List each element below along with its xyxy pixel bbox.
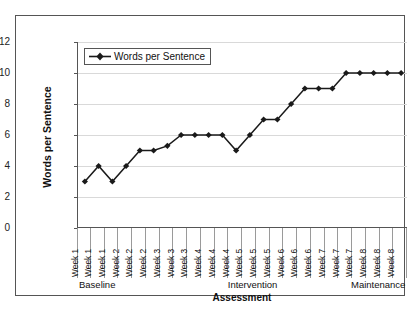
data-point-marker — [357, 70, 363, 76]
y-tick-label: 12 — [0, 37, 10, 47]
chart-figure: Words per Sentence 024681012 Words per S… — [0, 0, 420, 311]
x-tick-label: Week 7 — [317, 249, 326, 277]
plot-area — [77, 42, 407, 228]
x-tick-label: Week 3 — [152, 249, 161, 277]
x-tick-label: Week 1 — [70, 249, 79, 277]
phase-label: Maintenance — [351, 279, 405, 290]
x-tick-label: Week 4 — [194, 249, 203, 277]
y-axis-title: Words per Sentence — [38, 52, 56, 222]
x-tick-label: Week 2 — [139, 249, 148, 277]
y-axis-title-label: Words per Sentence — [41, 86, 53, 187]
x-tick-label: Week 8 — [386, 249, 395, 277]
chart-legend: Words per Sentence — [84, 48, 211, 65]
x-tick-label: Week 5 — [235, 249, 244, 277]
data-point-marker — [206, 132, 212, 138]
x-tick-label: Week 6 — [304, 249, 313, 277]
data-point-marker — [151, 147, 157, 153]
x-tick-label: Week 1 — [97, 249, 106, 277]
x-axis-labels: Week 1Week 1Week 1Week 2Week 2Week 2Week… — [77, 228, 407, 278]
data-point-marker — [371, 70, 377, 76]
y-tick-label: 8 — [0, 99, 10, 109]
x-tick-label: Week 7 — [331, 249, 340, 277]
x-tick-label: Week 6 — [276, 249, 285, 277]
phase-labels: BaselineInterventionMaintenance — [77, 279, 407, 292]
y-tick-label: 10 — [0, 68, 10, 78]
data-point-marker — [384, 70, 390, 76]
x-tick-label: Week 3 — [166, 249, 175, 277]
x-tick-label: Week 8 — [372, 249, 381, 277]
x-tick-label: Week 4 — [221, 249, 230, 277]
y-tick-label: 6 — [0, 130, 10, 140]
x-tick-label: Week 2 — [111, 249, 120, 277]
x-tick-label: Week 5 — [249, 249, 258, 277]
phase-label: Baseline — [79, 279, 115, 290]
data-point-marker — [192, 132, 198, 138]
x-tick-cell: Week 8 — [393, 228, 407, 278]
x-tick-label: Week 2 — [125, 249, 134, 277]
data-series-line — [78, 42, 408, 228]
x-tick-label: Week 4 — [207, 249, 216, 277]
x-tick-label: Week 3 — [180, 249, 189, 277]
x-tick-label: Week 1 — [84, 249, 93, 277]
data-point-marker — [316, 85, 322, 91]
y-tick-label: 4 — [0, 161, 10, 171]
legend-label: Words per Sentence — [114, 51, 205, 62]
chart-border: Words per Sentence 024681012 Words per S… — [15, 15, 405, 296]
data-point-marker — [398, 70, 404, 76]
legend-marker-icon — [89, 52, 111, 61]
x-axis-title: Assessment — [77, 292, 407, 303]
x-tick-label: Week 8 — [359, 249, 368, 277]
x-tick-label: Week 7 — [345, 249, 354, 277]
y-tick-label: 2 — [0, 192, 10, 202]
phase-label: Intervention — [228, 279, 278, 290]
x-tick-label: Week 5 — [262, 249, 271, 277]
x-tick-label: Week 6 — [290, 249, 299, 277]
y-tick-label: 0 — [0, 223, 10, 233]
